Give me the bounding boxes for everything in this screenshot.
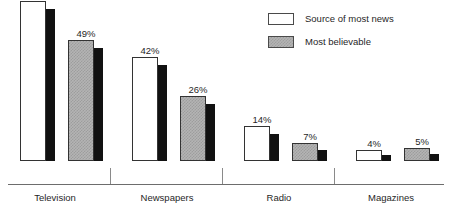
bar-value-label: 49% [64, 28, 108, 39]
bar-value-label: 14% [240, 114, 284, 125]
bar-side-shadow [382, 155, 391, 161]
bar-face [68, 40, 94, 161]
bar-face [292, 143, 318, 161]
bar-side-shadow [158, 65, 167, 161]
bar-side-shadow [430, 154, 439, 161]
bar-value-label: 5% [400, 136, 444, 147]
axis-baseline [8, 184, 444, 185]
plot-area: 65% 49% 42% 26% 14% 7% [0, 0, 450, 190]
bar-face [404, 148, 430, 161]
bar-value-label: 4% [352, 138, 396, 149]
category-label-television: Television [0, 192, 115, 204]
group-separator-tick [222, 168, 223, 184]
category-label-radio: Radio [219, 192, 339, 204]
bar-side-shadow [46, 9, 55, 161]
bar-side-shadow [206, 104, 215, 161]
group-separator-tick [334, 168, 335, 184]
bar-face [180, 96, 206, 161]
bar-face [244, 126, 270, 161]
bar-face [20, 1, 46, 161]
bar-value-label: 42% [128, 45, 172, 56]
group-separator-tick [110, 168, 111, 184]
category-label-magazines: Magazines [331, 192, 450, 204]
bar-face [356, 150, 382, 161]
bar-face [132, 57, 158, 161]
bar-chart: Source of most news Most believable 65% … [0, 0, 450, 213]
bar-side-shadow [270, 134, 279, 161]
category-label-newspapers: Newspapers [107, 192, 227, 204]
bar-side-shadow [318, 150, 327, 161]
bar-side-shadow [94, 48, 103, 161]
bar-value-label: 26% [176, 84, 220, 95]
bar-value-label: 7% [288, 131, 332, 142]
